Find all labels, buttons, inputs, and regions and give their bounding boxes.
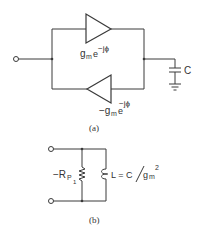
caption-a: (a) [89,123,99,133]
svg-text:−g: −g [99,105,110,116]
svg-text:g: g [80,48,86,59]
circuit-diagram: C g m e −jϕ −g m e −jϕ (a) [0,0,202,232]
ground-icon [169,84,181,90]
svg-text:m: m [111,110,117,117]
capacitor-label: C [184,65,191,76]
svg-text:m: m [86,53,92,60]
svg-text:−R: −R [53,169,66,180]
capacitor-icon [169,68,181,72]
inductor-icon [102,169,107,179]
svg-text:1: 1 [73,179,77,185]
svg-text:m: m [149,173,155,180]
bottom-amp-gain-label: −g m e −jϕ [99,99,130,117]
svg-text:2: 2 [155,164,159,171]
svg-text:P: P [67,174,72,181]
figure-b: −R P 1 L = C g m 2 (b) [49,147,160,226]
svg-text:−jϕ: −jϕ [119,99,130,108]
resistor-icon [79,167,85,181]
svg-text:−jϕ: −jϕ [98,44,109,53]
top-terminal-icon [49,147,54,152]
resistor-label: −R P 1 [53,169,77,185]
caption-b: (b) [89,215,100,225]
bottom-terminal-icon [49,199,54,204]
input-terminal-icon [14,57,19,62]
bottom-amplifier-icon [87,75,111,103]
svg-text:L = C: L = C [111,170,133,180]
figure-a: C g m e −jϕ −g m e −jϕ (a) [14,14,192,133]
inductor-label: L = C g m 2 [111,164,159,182]
svg-text:g: g [143,170,148,180]
top-amp-gain-label: g m e −jϕ [80,44,109,60]
top-amplifier-icon [86,14,111,43]
